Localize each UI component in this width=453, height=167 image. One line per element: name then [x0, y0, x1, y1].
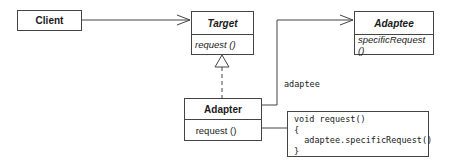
client-class-name: Client: [18, 11, 81, 30]
note-line: }: [294, 146, 422, 157]
association-label: adaptee: [284, 79, 320, 89]
adaptee-operation: specificRequest (): [355, 34, 433, 54]
target-class-name: Target: [192, 12, 253, 34]
adaptee-class: Adaptee specificRequest (): [354, 11, 434, 55]
adapter-operation: request (): [185, 119, 261, 140]
note-line: void request(): [294, 114, 422, 125]
note-line: {: [294, 125, 422, 136]
adapter-class-name: Adapter: [185, 99, 261, 119]
target-operation: request (): [192, 34, 253, 54]
adaptee-class-name: Adaptee: [355, 12, 433, 34]
target-class: Target request (): [191, 11, 254, 55]
implementation-note: void request(){ adaptee.specificRequest(…: [287, 111, 429, 157]
client-class: Client: [17, 10, 82, 31]
adapter-class: Adapter request (): [184, 98, 262, 141]
note-line: adaptee.specificRequest(): [294, 135, 422, 146]
